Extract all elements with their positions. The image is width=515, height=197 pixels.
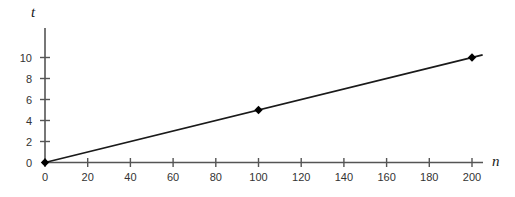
y-axis-tick-label: 10 (0, 52, 32, 63)
x-axis-tick-label: 60 (167, 172, 179, 183)
chart-plot-area (0, 0, 515, 197)
x-axis-tick-label: 100 (249, 172, 267, 183)
y-axis-tick-label: 0 (0, 157, 32, 168)
data-point-marker (468, 53, 476, 61)
data-series-line (45, 55, 483, 163)
data-point-marker (41, 158, 49, 166)
y-axis (40, 28, 50, 164)
data-point-marker (254, 106, 262, 114)
x-axis-tick-label: 140 (335, 172, 353, 183)
x-axis-tick-label: 40 (124, 172, 136, 183)
x-axis-label: n (492, 154, 500, 169)
data-point-markers (41, 53, 476, 166)
x-axis-tick-label: 180 (420, 172, 438, 183)
x-axis-tick-label: 0 (42, 172, 48, 183)
x-axis-tick-label: 80 (210, 172, 222, 183)
series-line (45, 55, 483, 163)
y-axis-tick-label: 8 (0, 73, 32, 84)
y-axis-label: t (31, 5, 35, 20)
x-axis-tick-label: 160 (377, 172, 395, 183)
x-axis-tick-label: 200 (463, 172, 481, 183)
y-axis-tick-label: 4 (0, 115, 32, 126)
x-axis (45, 158, 483, 167)
y-axis-tick-label: 6 (0, 94, 32, 105)
x-axis-tick-label: 120 (292, 172, 310, 183)
y-axis-tick-label: 2 (0, 136, 32, 147)
chart-container: 020406080100120140160180200 0246810 n t (0, 0, 515, 197)
x-axis-tick-label: 20 (82, 172, 94, 183)
